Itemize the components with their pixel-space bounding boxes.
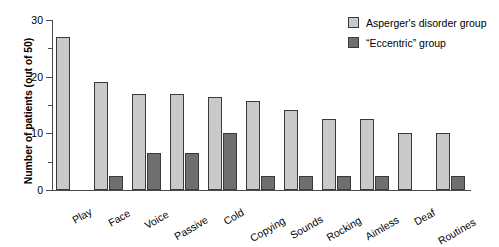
x-axis-label: Sounds (287, 213, 324, 241)
bar-group (52, 20, 90, 190)
x-axis-label: Voice (142, 208, 170, 231)
bar-eccentric (109, 176, 123, 190)
legend-label-asperger: Asperger's disorder group (366, 17, 486, 29)
bar-asperger (322, 119, 336, 190)
bar-group (204, 20, 242, 190)
bar-asperger (398, 133, 412, 190)
x-axis-label: Aimless (363, 213, 401, 242)
bar-asperger (436, 133, 450, 190)
bar-asperger (208, 97, 222, 191)
bar-eccentric (299, 176, 313, 190)
x-axis-label: Rocking (324, 214, 363, 243)
legend-label-eccentric: “Eccentric” group (366, 37, 446, 49)
bar-asperger (246, 101, 260, 190)
legend: Asperger's disorder group “Eccentric” gr… (348, 17, 486, 57)
bar-asperger (170, 94, 184, 190)
y-axis-title: Number of patients (out of 50) (22, 21, 34, 201)
bar-group (242, 20, 280, 190)
bar-eccentric (185, 153, 199, 190)
y-tick-label: 20 (31, 71, 43, 83)
legend-item-asperger: Asperger's disorder group (348, 17, 486, 28)
bar-eccentric (261, 176, 275, 190)
x-axis-labels: PlayFaceVoicePassiveColdCopyingSoundsRoc… (52, 191, 471, 240)
bar-eccentric (375, 176, 389, 190)
legend-item-eccentric: “Eccentric” group (348, 37, 486, 48)
x-axis-label: Face (106, 207, 132, 229)
bar-group (281, 20, 319, 190)
bar-asperger (360, 119, 374, 190)
y-tick-label: 10 (31, 127, 43, 139)
bar-eccentric (223, 133, 237, 190)
bar-group (128, 20, 166, 190)
y-tick-label: 30 (31, 14, 43, 26)
bar-eccentric (337, 176, 351, 190)
bar-group (166, 20, 204, 190)
bar-eccentric (451, 176, 465, 190)
x-axis-label: Passive (172, 213, 210, 242)
legend-swatch-icon-dark (348, 37, 359, 48)
x-axis-label: Deaf (412, 206, 437, 227)
bar-group (90, 20, 128, 190)
x-axis-label: Copying (247, 214, 286, 244)
x-axis-label: Play (70, 205, 94, 226)
bar-asperger (132, 94, 146, 190)
x-axis-label: Cold (222, 206, 247, 227)
bar-asperger (284, 110, 298, 190)
y-tick-label: 0 (37, 184, 43, 196)
bar-asperger (94, 82, 108, 190)
bar-asperger (56, 37, 70, 190)
legend-swatch-icon-light (348, 17, 359, 28)
x-axis-label: Routines (436, 216, 478, 247)
bar-eccentric (147, 153, 161, 190)
